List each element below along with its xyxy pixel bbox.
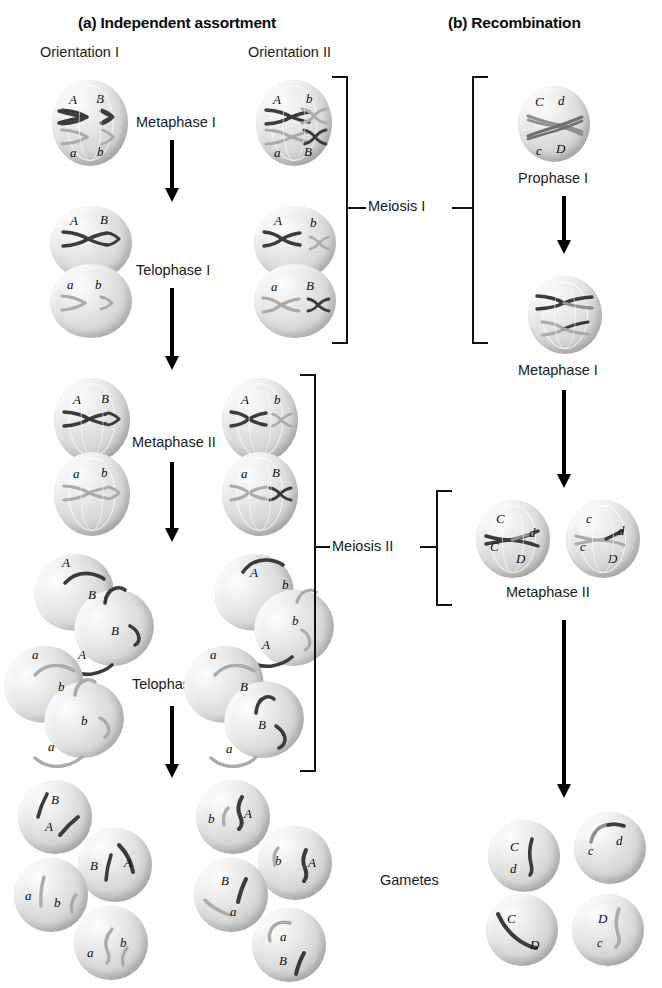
gamete-cell: D c	[572, 894, 644, 966]
gametes-label: Gametes	[380, 872, 439, 888]
allele-label: b	[292, 614, 299, 627]
allele-label: A	[73, 393, 81, 406]
allele-label: b	[274, 393, 281, 406]
cell-metaphase2-panelb-right: c d c D	[566, 500, 640, 578]
phase-label-metaphase-2-panelb: Metaphase II	[506, 584, 590, 600]
phase-label-metaphase-2: Metaphase II	[132, 434, 216, 450]
allele-label: A	[62, 556, 70, 569]
allele-label: a	[210, 648, 217, 661]
allele-label: A	[244, 807, 252, 820]
allele-label: a	[226, 742, 233, 755]
cell-metaphase2-panelb-left: C d C D	[476, 500, 550, 578]
gamete-cell: a B	[252, 908, 326, 982]
cell-metaphase1-panelb	[528, 276, 602, 354]
chromosome-dark	[35, 791, 51, 821]
allele-label: b	[97, 145, 104, 158]
allele-label: B	[221, 874, 229, 887]
allele-label: b	[54, 896, 61, 909]
allele-label: B	[111, 624, 119, 637]
chromosome-light	[538, 320, 594, 338]
allele-label: D	[556, 142, 565, 155]
cell-metaphase1-orientation2: A b a B	[256, 80, 332, 166]
chromosome-dark	[102, 852, 116, 884]
allele-label: a	[274, 146, 281, 159]
allele-label: a	[32, 648, 39, 661]
allele-label: B	[88, 588, 96, 601]
chromosome-light	[227, 484, 271, 502]
chromosome-dark	[234, 876, 252, 906]
allele-label: B	[90, 859, 98, 872]
chromosome-light	[66, 892, 82, 916]
allele-label: a	[25, 889, 32, 902]
gamete-cell: b A	[258, 826, 332, 900]
allele-label: b	[58, 680, 65, 693]
allele-label: D	[608, 552, 617, 565]
allele-label: b	[310, 216, 317, 229]
allele-label: B	[258, 718, 266, 731]
chromosome-dark	[56, 813, 84, 841]
chromosome-dark	[260, 108, 328, 126]
allele-label: a	[48, 740, 55, 753]
chromosome-light	[99, 926, 119, 966]
bracket-label-meiosis-2: Meiosis II	[332, 538, 393, 554]
allele-label: d	[529, 526, 536, 539]
cell-metaphase1-orientation1: A B a b	[52, 80, 128, 166]
allele-label: A	[124, 856, 132, 869]
chromosome-light	[610, 906, 626, 950]
allele-label: A	[70, 214, 78, 227]
allele-label: B	[96, 92, 104, 105]
allele-label: a	[73, 467, 80, 480]
panel-b-title: (b) Recombination	[448, 14, 581, 32]
allele-label: b	[306, 92, 313, 105]
allele-label: b	[208, 812, 215, 825]
chromosome-crossover	[524, 110, 586, 144]
bracket-tick	[452, 207, 472, 209]
gamete-cell: B a	[194, 858, 268, 932]
cell-metaphase2-orientation1-bottom: a b	[54, 452, 130, 536]
gamete-cell: a b	[14, 858, 88, 932]
allele-label: b	[95, 278, 102, 291]
orientation-2-label: Orientation II	[248, 44, 331, 60]
allele-label: A	[45, 820, 53, 833]
allele-label: B	[101, 392, 109, 405]
chromosome-light	[300, 106, 330, 126]
allele-label: b	[101, 466, 108, 479]
allele-label: A	[241, 393, 249, 406]
allele-label: a	[280, 930, 287, 943]
allele-label: A	[274, 214, 282, 227]
allele-label: D	[516, 552, 525, 565]
allele-label: b	[120, 936, 127, 949]
gamete-cell: C D	[486, 894, 558, 966]
chromosome-light	[218, 806, 234, 828]
allele-label: a	[70, 146, 77, 159]
chromosome-light	[56, 128, 124, 146]
bracket-meiosis-2-left	[300, 374, 316, 772]
chromosome-dark	[292, 950, 310, 978]
cell-prophase1-panelb: C d c D	[518, 86, 590, 162]
chromosome-dark	[532, 294, 598, 312]
phase-label-prophase-1-panelb: Prophase I	[518, 170, 588, 186]
cell-lobe-bottom	[50, 264, 132, 338]
bracket-tick	[346, 207, 366, 209]
allele-label: c	[536, 144, 542, 157]
bracket-meiosis-1-right	[472, 76, 488, 344]
allele-label: C	[535, 95, 544, 108]
gamete-cell: b A	[196, 780, 270, 854]
panel-a-title: (a) Independent assortment	[78, 14, 276, 32]
chromosome-recombinant	[524, 836, 538, 878]
allele-label: C	[507, 912, 516, 925]
allele-label: A	[308, 856, 316, 869]
allele-label: B	[240, 680, 248, 693]
cell-metaphase2-orientation2-top: A b	[222, 378, 298, 462]
chromosome-light	[264, 918, 294, 944]
allele-label: a	[230, 905, 237, 918]
chromosome-light	[260, 128, 328, 146]
phase-label-telophase-1: Telophase I	[136, 262, 210, 278]
chromosome-dark	[227, 410, 271, 428]
bracket-meiosis-1-left	[332, 76, 348, 344]
bracket-tick	[420, 546, 436, 548]
gamete-cell: c d	[574, 812, 646, 884]
allele-label: b	[275, 854, 282, 867]
allele-label: A	[69, 93, 77, 106]
allele-label: d	[558, 94, 565, 107]
